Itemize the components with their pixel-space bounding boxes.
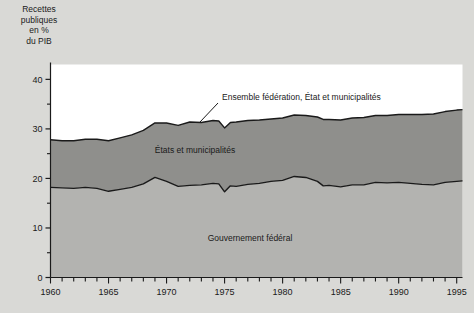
x-tick-label: 1965 (99, 287, 119, 297)
y-tick-label: 0 (37, 273, 42, 283)
federal-band-annotation: Gouvernement fédéral (208, 233, 293, 243)
y-tick-label: 10 (32, 223, 42, 233)
x-tick-label: 1980 (273, 287, 293, 297)
state-band-annotation: États et municipalités (155, 145, 235, 155)
federal-band (51, 176, 463, 277)
y-tick-label: 40 (32, 75, 42, 85)
chart-page: Recettes publiques en % du PIB 010203040… (0, 0, 474, 313)
x-tick-label: 1995 (447, 287, 467, 297)
x-tick-label: 1975 (215, 287, 235, 297)
x-tick-label: 1985 (331, 287, 351, 297)
y-tick-label: 20 (32, 174, 42, 184)
x-tick-label: 1970 (157, 287, 177, 297)
x-tick-label: 1990 (389, 287, 409, 297)
x-tick-label: 1960 (40, 287, 60, 297)
stacked-area-chart: 0102030401960196519701975198019851990199… (0, 0, 474, 313)
total-curve-annotation: Ensemble fédération, État et municipalit… (222, 92, 381, 102)
y-tick-label: 30 (32, 124, 42, 134)
